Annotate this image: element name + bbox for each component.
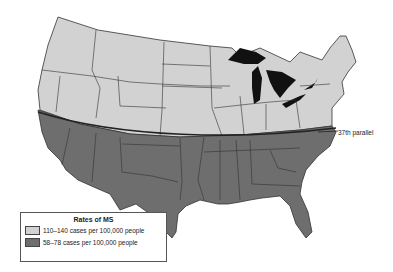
legend-label-low: 58–78 cases per 100,000 people [43, 239, 138, 246]
legend: Rates of MS 110–140 cases per 100,000 pe… [20, 212, 167, 262]
37th-parallel-label: 37th parallel [338, 129, 373, 136]
legend-label-high: 110–140 cases per 100,000 people [43, 227, 144, 234]
north-region [38, 17, 356, 137]
legend-item-low: 58–78 cases per 100,000 people [25, 238, 162, 247]
swatch-light-icon [25, 226, 40, 235]
legend-item-high: 110–140 cases per 100,000 people [25, 226, 162, 235]
swatch-dark-icon [25, 238, 40, 247]
legend-title: Rates of MS [25, 216, 162, 223]
